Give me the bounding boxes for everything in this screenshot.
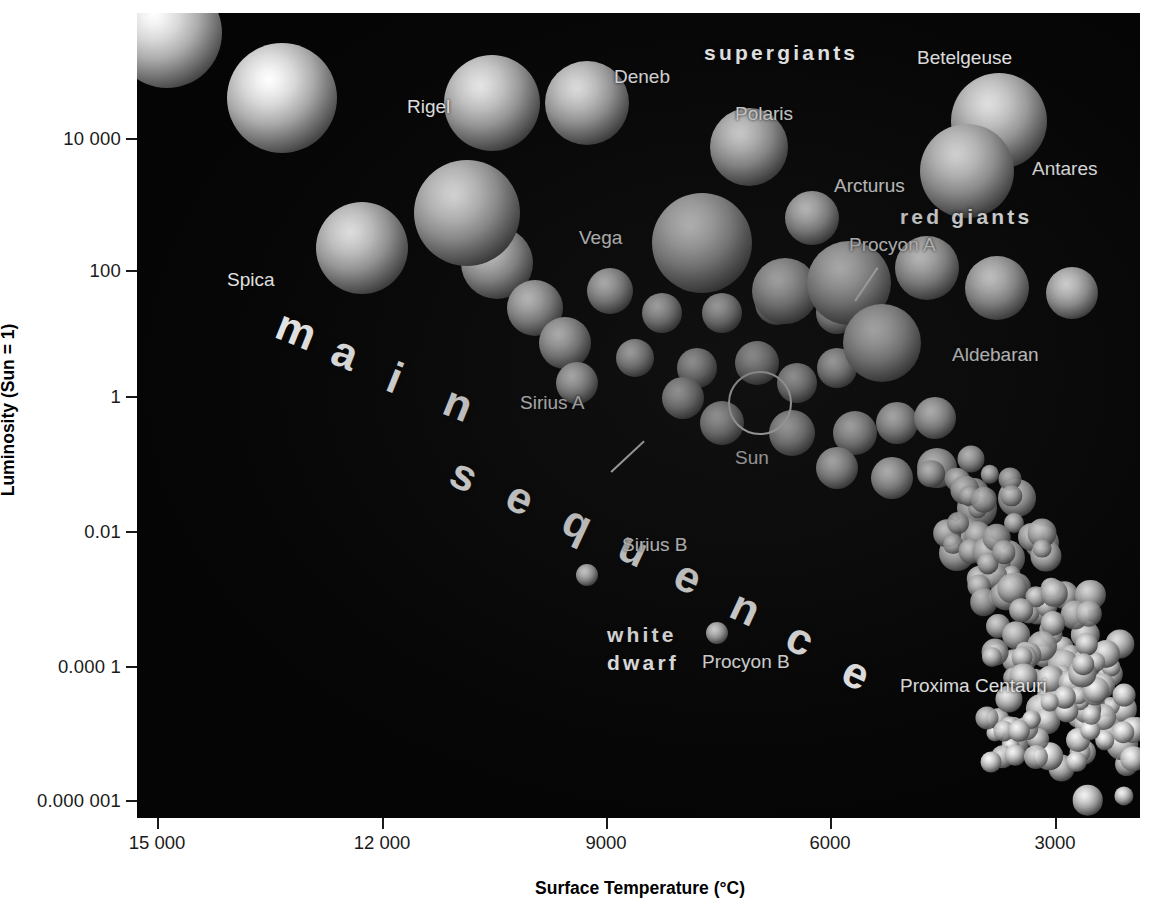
curve-letter: q [555, 494, 601, 551]
star-point [982, 647, 1002, 667]
y-tick-mark [126, 270, 137, 272]
star-ms-20 [914, 397, 956, 439]
star-label-vega: Vega [579, 227, 622, 249]
star-unnamed-topleft [137, 13, 222, 88]
y-tick-label: 1 [111, 386, 122, 408]
x-axis-title: Surface Temperature (°C) [535, 878, 745, 899]
x-tick-mark [830, 818, 832, 829]
y-tick-label: 100 [90, 260, 121, 282]
star-point [1024, 745, 1048, 769]
star-ms-16 [876, 402, 918, 444]
curve-letter: e [667, 550, 710, 606]
star-point [1121, 746, 1140, 772]
star-point [1112, 684, 1135, 707]
star-label-sun: Sun [735, 447, 769, 469]
star-point [1005, 745, 1026, 766]
star-arcturus [785, 191, 839, 245]
star-point [1066, 752, 1086, 772]
sirius-a-leader-line [610, 441, 644, 473]
curve-letter: m [269, 299, 324, 360]
hr-diagram-figure: supergiants red giants white dwarf main … [0, 0, 1159, 914]
x-tick-label: 3000 [1034, 832, 1075, 854]
star-ms-8 [616, 339, 654, 377]
star-point [917, 460, 945, 488]
star-label-polaris: Polaris [735, 103, 793, 125]
x-tick-mark [382, 818, 384, 829]
curve-letter: a [325, 325, 366, 381]
star-label-rigel: Rigel [407, 96, 450, 118]
y-tick-mark [126, 531, 137, 533]
x-tick-label: 12 000 [354, 832, 411, 854]
y-tick-label: 0.000 1 [58, 656, 121, 678]
star-aldebaran [843, 304, 921, 382]
star-ms-2 [587, 268, 633, 314]
y-tick-label: 10 000 [63, 128, 121, 150]
star-label-antares: Antares [1032, 158, 1097, 180]
y-axis-title: Luminosity (Sun = 1) [0, 324, 19, 497]
star-ms-4 [702, 293, 742, 333]
star-spica [316, 202, 408, 294]
plot-area: supergiants red giants white dwarf main … [137, 13, 1140, 818]
region-label-white-dwarf-line1: white [607, 623, 677, 647]
star-antares [920, 124, 1014, 218]
star-label-procyon-a: Procyon A [849, 234, 936, 256]
star-point [1112, 722, 1134, 744]
star-point [1009, 598, 1033, 622]
sun-highlight-ring [728, 371, 792, 435]
y-tick-mark [126, 666, 137, 668]
star-ms-7 [539, 317, 591, 369]
star-point [1076, 633, 1099, 656]
star-label-aldebaran: Aldebaran [952, 344, 1039, 366]
y-tick-mark [126, 800, 137, 802]
star-sirius-b [576, 564, 598, 586]
x-tick-mark [606, 818, 608, 829]
x-tick-label: 15 000 [129, 832, 186, 854]
star-point [981, 465, 999, 483]
star-deneb-region [414, 160, 520, 266]
star-label-sirius-a: Sirius A [520, 392, 584, 414]
star-label-procyon-b: Procyon B [702, 651, 790, 673]
star-ms-11 [662, 377, 704, 419]
star-point [1076, 601, 1102, 627]
star-label-spica: Spica [227, 269, 275, 291]
star-red-giant-4 [1046, 267, 1098, 319]
star-point [1073, 653, 1095, 675]
star-point [981, 751, 1002, 772]
curve-letter: n [723, 579, 769, 636]
curve-letter: n [437, 376, 481, 432]
region-label-red-giants: red giants [900, 205, 1032, 229]
star-red-giant-3 [965, 256, 1029, 320]
star-point [1082, 706, 1101, 725]
region-label-white-dwarf-line2: dwarf [607, 651, 679, 675]
curve-letter: e [835, 645, 878, 701]
star-ms-17 [816, 447, 858, 489]
star-point [958, 446, 985, 473]
star-label-deneb: Deneb [614, 66, 670, 88]
curve-letter: i [380, 352, 410, 403]
star-point [947, 512, 969, 534]
star-point [1072, 785, 1103, 816]
y-tick-label: 0.01 [84, 521, 121, 543]
region-label-supergiants: supergiants [704, 41, 858, 65]
star-spica-hot-giant [227, 43, 337, 153]
star-vega [652, 193, 752, 293]
star-point [1114, 786, 1133, 805]
star-label-sirius-b: Sirius B [622, 534, 687, 556]
star-label-betelgeuse: Betelgeuse [917, 47, 1012, 69]
y-tick-mark [126, 138, 137, 140]
x-tick-label: 9000 [585, 832, 626, 854]
curve-letter: e [499, 470, 542, 526]
star-label-proxima-centauri: Proxima Centauri [900, 675, 1047, 697]
x-tick-mark [1055, 818, 1057, 829]
star-ms-18 [871, 457, 913, 499]
x-tick-mark [157, 818, 159, 829]
star-label-arcturus: Arcturus [834, 175, 905, 197]
star-rigel [444, 55, 540, 151]
y-tick-mark [126, 396, 137, 398]
x-tick-label: 6000 [809, 832, 850, 854]
y-tick-label: 0.000 001 [37, 790, 121, 812]
curve-letter: s [443, 447, 486, 503]
star-ms-3 [642, 293, 682, 333]
star-point [1033, 539, 1052, 558]
